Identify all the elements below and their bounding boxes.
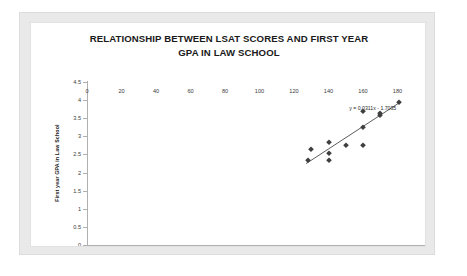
y-tick-label: 2 xyxy=(78,170,81,176)
x-tick-label: 160 xyxy=(358,88,367,94)
x-tick xyxy=(329,245,330,247)
x-tick-label: 80 xyxy=(222,88,228,94)
y-tick-label: 3 xyxy=(78,133,81,139)
y-tick-label: 4 xyxy=(78,97,81,103)
y-tick xyxy=(83,118,87,119)
trendline-equation-label: y = 0.0311x - 1.7035 xyxy=(349,105,396,111)
chart-title-line-1: RELATIONSHIP BETWEEN LSAT SCORES AND FIR… xyxy=(31,32,426,46)
x-tick-label: 120 xyxy=(289,88,298,94)
y-tick-label: 3.5 xyxy=(73,115,81,121)
y-tick-label: 1 xyxy=(78,206,81,212)
x-tick xyxy=(225,245,226,247)
x-tick-label: 140 xyxy=(324,88,333,94)
y-tick xyxy=(83,82,87,83)
plot-area: y = 0.0311x - 1.7035 00.511.522.533.544.… xyxy=(87,82,426,245)
figure-frame: RELATIONSHIP BETWEEN LSAT SCORES AND FIR… xyxy=(19,12,435,255)
x-tick-label: 40 xyxy=(153,88,159,94)
y-tick xyxy=(83,191,87,192)
y-tick-label: 0 xyxy=(78,242,81,247)
y-tick-label: 0.5 xyxy=(73,224,81,230)
x-tick-label: 100 xyxy=(255,88,264,94)
y-tick xyxy=(83,173,87,174)
x-tick-label: 20 xyxy=(118,88,124,94)
x-tick-label: 0 xyxy=(85,88,88,94)
x-tick-label: 180 xyxy=(393,88,402,94)
chart-title-line-2: GPA IN LAW SCHOOL xyxy=(31,46,426,60)
x-tick xyxy=(87,245,88,247)
y-tick xyxy=(83,227,87,228)
chart-title: RELATIONSHIP BETWEEN LSAT SCORES AND FIR… xyxy=(31,32,426,59)
chart-canvas: RELATIONSHIP BETWEEN LSAT SCORES AND FIR… xyxy=(30,22,426,247)
x-tick xyxy=(363,245,364,247)
y-axis-title: First year GPA in Law School xyxy=(54,124,60,202)
x-tick xyxy=(260,245,261,247)
x-tick-label: 60 xyxy=(187,88,193,94)
x-axis-line xyxy=(87,245,426,246)
y-tick xyxy=(83,100,87,101)
x-tick xyxy=(191,245,192,247)
y-tick xyxy=(83,209,87,210)
y-tick xyxy=(83,136,87,137)
x-tick xyxy=(294,245,295,247)
y-tick-label: 1.5 xyxy=(73,188,81,194)
y-tick-label: 2.5 xyxy=(73,151,81,157)
x-tick xyxy=(122,245,123,247)
x-tick xyxy=(156,245,157,247)
y-tick-label: 4.5 xyxy=(73,79,81,85)
x-tick xyxy=(398,245,399,247)
y-tick xyxy=(83,154,87,155)
